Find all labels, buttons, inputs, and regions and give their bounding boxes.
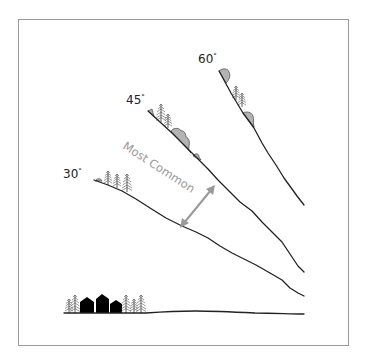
- pine-tree-icon: [104, 171, 112, 185]
- double-arrow-icon: [184, 190, 211, 223]
- angle-label-60: 60°: [198, 52, 217, 66]
- slope-line-45: [148, 111, 304, 272]
- house-icon: [96, 294, 109, 313]
- slope-line-30: [94, 180, 304, 296]
- slope-diagram: 60° 45° 30° Most Common: [0, 0, 368, 359]
- most-common-annotation: Most Common: [120, 139, 215, 228]
- valley: [64, 294, 304, 314]
- pine-tree-icon: [121, 295, 131, 313]
- house-icon: [80, 297, 94, 313]
- pine-tree-icon: [113, 174, 121, 188]
- slope-60: 60°: [198, 52, 304, 205]
- pine-tree-icon: [136, 295, 146, 313]
- house-icon: [110, 300, 122, 313]
- slope-line-60: [219, 71, 304, 205]
- slope-45: 45°: [126, 93, 304, 272]
- angle-label-30: 30°: [63, 167, 82, 181]
- angle-label-45: 45°: [126, 93, 145, 107]
- pine-tree-icon: [70, 295, 80, 313]
- pine-tree-icon: [65, 299, 73, 313]
- pine-tree-icon: [122, 174, 132, 192]
